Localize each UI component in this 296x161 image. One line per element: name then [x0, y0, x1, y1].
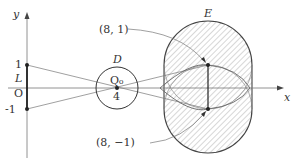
point-0-1 [25, 63, 29, 67]
region-e-label: E [203, 7, 212, 20]
origin-label: O [14, 87, 23, 100]
q0-label: Q₀ [110, 74, 124, 87]
diagram: y x 1 L O -1 D Q₀ 4 E (8, 1) (8, −1) [0, 0, 296, 161]
y-tick-1: 1 [15, 58, 22, 71]
point-8-1 [206, 63, 210, 67]
y-tick-neg1: -1 [5, 103, 16, 116]
point-0-neg1 [25, 107, 29, 111]
point-8-neg1-label: (8, −1) [96, 136, 135, 149]
y-axis-label: y [12, 8, 20, 21]
point-8-neg1 [206, 107, 210, 111]
segment-l-label: L [14, 72, 22, 85]
x-axis-label: x [284, 91, 291, 104]
region-e [150, 10, 270, 160]
x-axis-arrow-icon [277, 86, 284, 91]
q0-x-label: 4 [113, 90, 120, 103]
circle-d-label: D [112, 53, 122, 66]
point-8-1-label: (8, 1) [99, 23, 129, 36]
y-axis-arrow-icon [25, 12, 30, 19]
